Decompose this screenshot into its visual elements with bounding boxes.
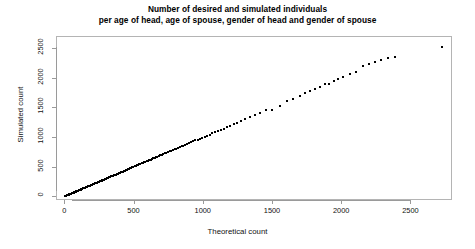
data-point [380, 59, 382, 61]
y-tick-label: 1500 [36, 96, 45, 116]
y-tick-label: 500 [36, 155, 45, 175]
data-point [374, 61, 376, 63]
data-point [333, 80, 335, 82]
y-tick-mark [52, 167, 56, 168]
data-point [362, 65, 364, 67]
x-tick-mark [64, 200, 65, 204]
y-tick-mark [52, 107, 56, 108]
x-axis-title: Theoretical count [0, 227, 475, 236]
data-point [368, 63, 370, 65]
y-tick-mark [52, 137, 56, 138]
chart-title-line-1: Number of desired and simulated individu… [0, 4, 475, 15]
data-point [220, 129, 222, 131]
data-point [309, 90, 311, 92]
data-point [217, 130, 219, 132]
data-point [223, 128, 225, 130]
x-tick-mark [272, 200, 273, 204]
chart-figure: Number of desired and simulated individu… [0, 0, 475, 249]
data-point [355, 71, 357, 73]
x-tick-label: 2500 [390, 206, 430, 215]
y-tick-label: 2500 [36, 36, 45, 56]
data-point [226, 126, 228, 128]
data-point [324, 83, 326, 85]
scatter-plot-area [56, 36, 452, 200]
data-point [244, 118, 246, 120]
data-point [441, 46, 443, 48]
y-tick-mark [52, 78, 56, 79]
data-point [240, 120, 242, 122]
y-tick-mark [52, 196, 56, 197]
y-tick-mark [52, 48, 56, 49]
data-point [286, 100, 288, 102]
data-point [271, 109, 273, 111]
x-tick-label: 0 [44, 206, 84, 215]
data-point [387, 57, 389, 59]
chart-title: Number of desired and simulated individu… [0, 4, 475, 26]
data-point [265, 109, 267, 111]
y-tick-label: 2000 [36, 66, 45, 86]
x-tick-label: 1000 [183, 206, 223, 215]
data-point [254, 114, 256, 116]
data-point [337, 78, 339, 80]
data-point [211, 132, 213, 134]
data-point [249, 116, 251, 118]
data-point [236, 122, 238, 124]
data-point [279, 105, 281, 107]
data-point [259, 112, 261, 114]
data-point [394, 56, 396, 58]
data-point [229, 125, 231, 127]
data-point [214, 131, 216, 133]
data-point [299, 95, 301, 97]
y-axis-line [56, 47, 57, 191]
data-point [328, 83, 330, 85]
data-point [342, 76, 344, 78]
x-tick-mark [203, 200, 204, 204]
y-axis-title: Simulated count [16, 65, 25, 165]
data-point [233, 123, 235, 125]
data-point [292, 98, 294, 100]
x-tick-label: 1500 [252, 206, 292, 215]
x-tick-label: 2000 [321, 206, 361, 215]
data-point [319, 86, 321, 88]
x-tick-label: 500 [114, 206, 154, 215]
y-tick-label: 1000 [36, 126, 45, 146]
x-axis-line [72, 200, 411, 201]
chart-title-line-2: per age of head, age of spouse, gender o… [0, 15, 475, 26]
x-tick-mark [341, 200, 342, 204]
data-point [314, 88, 316, 90]
data-point [304, 92, 306, 94]
x-tick-mark [134, 200, 135, 204]
y-tick-label: 0 [36, 185, 45, 205]
x-tick-mark [410, 200, 411, 204]
data-point [349, 73, 351, 75]
